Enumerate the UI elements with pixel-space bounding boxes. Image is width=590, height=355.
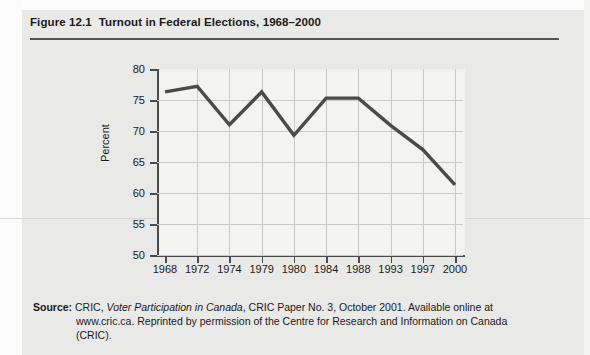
x-axis-tick-mark [165, 257, 167, 263]
x-axis-tick-mark [229, 257, 231, 263]
y-axis-tick-label: 80 [105, 64, 145, 75]
y-axis-tick-label: 55 [105, 219, 145, 230]
page-right-edge [584, 0, 590, 355]
page-left-margin [0, 0, 22, 355]
figure-title-text: Turnout in Federal Elections, 1968–2000 [99, 16, 321, 28]
y-axis-tick-mark [150, 193, 157, 195]
y-axis-tick-mark [150, 131, 157, 133]
figure-number: Figure 12.1 [30, 16, 92, 28]
source-label: Source: [33, 301, 72, 313]
y-axis-tick-mark [150, 162, 157, 164]
y-axis-tick-label: 60 [105, 188, 145, 199]
x-axis-tick-mark [262, 257, 264, 263]
x-axis-tick-label: 2000 [435, 264, 475, 275]
turnout-line-series [157, 69, 463, 255]
y-axis-tick-mark [150, 224, 157, 226]
figure-title: Figure 12.1Turnout in Federal Elections,… [30, 16, 321, 28]
chart: Percent 50556065707580 19681972197419791… [105, 58, 485, 263]
source-note: Source: CRIC, Voter Participation in Can… [33, 300, 543, 342]
x-axis-tick-mark [391, 257, 393, 263]
title-divider [30, 38, 559, 40]
x-axis-tick-mark [294, 257, 296, 263]
source-italic-title: Voter Participation in Canada [107, 301, 243, 313]
source-text-part1: CRIC, [75, 301, 107, 313]
x-axis-tick-mark [326, 257, 328, 263]
gridline-horizontal [157, 255, 463, 256]
y-axis-tick-mark [150, 69, 157, 71]
x-axis-tick-mark [197, 257, 199, 263]
x-axis-tick-mark [423, 257, 425, 263]
figure-page: Figure 12.1Turnout in Federal Elections,… [0, 0, 590, 355]
y-axis-tick-mark [150, 100, 157, 102]
y-axis-tick-label: 50 [105, 250, 145, 261]
x-axis-tick-mark [358, 257, 360, 263]
y-axis-tick-mark [150, 255, 157, 257]
y-axis-tick-label: 65 [105, 157, 145, 168]
x-axis-tick-mark [455, 257, 457, 263]
y-axis-tick-label: 70 [105, 126, 145, 137]
page-top-margin [0, 0, 590, 10]
y-axis-tick-label: 75 [105, 95, 145, 106]
